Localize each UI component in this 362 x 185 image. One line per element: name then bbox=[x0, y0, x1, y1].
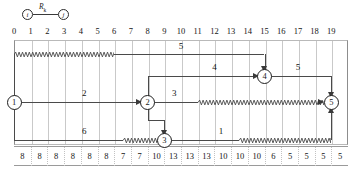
histogram-cell: 10 bbox=[248, 147, 265, 166]
axis-tick-9: 9 bbox=[156, 26, 172, 36]
axis-tick-3: 3 bbox=[56, 26, 72, 36]
activity-1-3 bbox=[14, 140, 123, 141]
activity-2-5 bbox=[148, 102, 198, 103]
histogram-cell: 8 bbox=[64, 147, 81, 166]
histogram-cell: 7 bbox=[114, 147, 131, 166]
activity-3-5 bbox=[164, 140, 239, 141]
histogram-cell: 6 bbox=[265, 147, 282, 166]
axis-tick-13: 13 bbox=[223, 26, 239, 36]
activity-label-4-5: 5 bbox=[296, 62, 301, 72]
axis-tick-18: 18 bbox=[307, 26, 323, 36]
resource-histogram: 888888771013131310101065555 bbox=[14, 146, 348, 166]
histogram-cell: 5 bbox=[281, 147, 298, 166]
activity-label-1-4: 5 bbox=[179, 41, 184, 51]
legend-connector bbox=[33, 14, 58, 15]
histogram-cell: 8 bbox=[31, 147, 48, 166]
histogram-cell: 8 bbox=[81, 147, 98, 166]
activity-network: 545236112345 bbox=[14, 40, 348, 145]
network-node-3[interactable]: 3 bbox=[157, 133, 172, 148]
axis-tick-19: 19 bbox=[323, 26, 339, 36]
legend-edge-label: Rk bbox=[39, 2, 46, 13]
axis-tick-2: 2 bbox=[39, 26, 55, 36]
histogram-cell: 10 bbox=[148, 147, 165, 166]
histogram-cell: 10 bbox=[231, 147, 248, 166]
axis-tick-12: 12 bbox=[206, 26, 222, 36]
dummy-link-2-3 bbox=[148, 120, 165, 121]
activity-label-2-5: 3 bbox=[172, 88, 177, 98]
activity-label-3-5: 1 bbox=[219, 126, 224, 136]
histogram-cell: 5 bbox=[298, 147, 315, 166]
float-1-3 bbox=[123, 137, 158, 144]
time-axis: 012345678910111213141516171819 bbox=[14, 26, 348, 39]
legend: i Rk j bbox=[22, 2, 78, 22]
float-1-4 bbox=[14, 51, 114, 58]
network-node-1[interactable]: 1 bbox=[7, 95, 22, 110]
float-3-5 bbox=[239, 137, 331, 144]
float-2-5 bbox=[198, 99, 325, 106]
network-node-4[interactable]: 4 bbox=[257, 69, 272, 84]
legend-edge-label-sub: k bbox=[44, 7, 47, 13]
axis-tick-17: 17 bbox=[290, 26, 306, 36]
axis-tick-8: 8 bbox=[140, 26, 156, 36]
axis-tick-6: 6 bbox=[106, 26, 122, 36]
axis-tick-4: 4 bbox=[73, 26, 89, 36]
histogram-cell: 5 bbox=[331, 147, 348, 166]
histogram-cell: 13 bbox=[164, 147, 181, 166]
axis-tick-11: 11 bbox=[190, 26, 206, 36]
legend-node-i: i bbox=[22, 9, 33, 20]
axis-tick-10: 10 bbox=[173, 26, 189, 36]
histogram-cell: 13 bbox=[181, 147, 198, 166]
histogram-cell: 13 bbox=[198, 147, 215, 166]
activity-label-2-4: 4 bbox=[212, 62, 217, 72]
histogram-cell: 8 bbox=[14, 147, 31, 166]
axis-tick-15: 15 bbox=[257, 26, 273, 36]
activity-4-5 bbox=[265, 76, 332, 77]
legend-node-j: j bbox=[58, 9, 69, 20]
network-node-5[interactable]: 5 bbox=[324, 95, 339, 110]
activity-1-4 bbox=[114, 54, 264, 55]
network-node-2[interactable]: 2 bbox=[140, 95, 155, 110]
histogram-cell: 5 bbox=[315, 147, 332, 166]
activity-label-1-3: 6 bbox=[82, 126, 87, 136]
axis-tick-16: 16 bbox=[273, 26, 289, 36]
axis-tick-7: 7 bbox=[123, 26, 139, 36]
axis-tick-5: 5 bbox=[90, 26, 106, 36]
histogram-cell: 8 bbox=[98, 147, 115, 166]
axis-tick-0: 0 bbox=[6, 26, 22, 36]
activity-label-1-2: 2 bbox=[82, 88, 87, 98]
histogram-cell: 10 bbox=[214, 147, 231, 166]
axis-tick-14: 14 bbox=[240, 26, 256, 36]
histogram-cell: 8 bbox=[47, 147, 64, 166]
riser-3-5 bbox=[331, 109, 332, 140]
axis-tick-1: 1 bbox=[23, 26, 39, 36]
histogram-cell: 7 bbox=[131, 147, 148, 166]
diagram-root: i Rk j 012345678910111213141516171819 54… bbox=[0, 0, 362, 185]
activity-2-4 bbox=[148, 76, 259, 77]
activity-1-2 bbox=[14, 102, 142, 103]
